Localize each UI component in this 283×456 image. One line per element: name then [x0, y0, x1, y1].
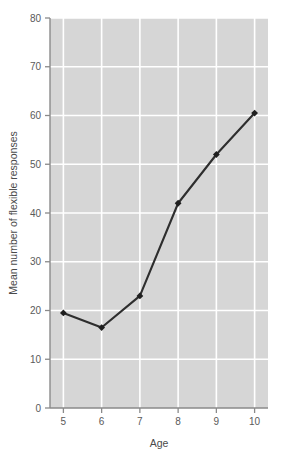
y-tick-label-10: 10: [30, 354, 42, 365]
y-tick-label-50: 50: [30, 159, 42, 170]
y-axis-title: Mean number of flexible responses: [7, 131, 19, 294]
y-tick-label-80: 80: [30, 13, 42, 24]
y-tick-label-20: 20: [30, 305, 42, 316]
x-tick-label-9: 9: [214, 416, 220, 427]
x-tick-label-8: 8: [175, 416, 181, 427]
chart-figure: 01020304050607080 5678910 Age Mean numbe…: [0, 0, 283, 456]
y-tick-label-40: 40: [30, 208, 42, 219]
y-tick-label-30: 30: [30, 256, 42, 267]
y-tick-label-60: 60: [30, 110, 42, 121]
y-tick-label-70: 70: [30, 61, 42, 72]
x-tick-label-10: 10: [249, 416, 261, 427]
x-tick-label-6: 6: [99, 416, 105, 427]
x-axis-title: Age: [150, 437, 169, 449]
x-tick-label-7: 7: [137, 416, 143, 427]
line-chart: 01020304050607080 5678910 Age Mean numbe…: [0, 0, 283, 456]
x-tick-label-5: 5: [61, 416, 67, 427]
y-tick-label-0: 0: [35, 403, 41, 414]
